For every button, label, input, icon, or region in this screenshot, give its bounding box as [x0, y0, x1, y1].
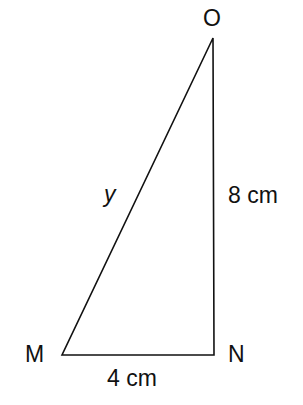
vertex-label-n: N	[228, 343, 245, 366]
side-label-mn: 4 cm	[107, 367, 157, 390]
side-label-on: 8 cm	[228, 184, 278, 207]
vertex-label-m: M	[25, 343, 44, 366]
side-label-mo: y	[104, 183, 116, 206]
triangle-diagram: O M N y 8 cm 4 cm	[0, 0, 303, 405]
vertex-label-o: O	[203, 7, 221, 30]
